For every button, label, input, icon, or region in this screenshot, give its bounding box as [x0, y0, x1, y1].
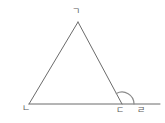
vertex-label-extension-end: ㄹ — [137, 106, 145, 115]
geometry-figure: ㄱ ㄴ ㄷ ㄹ — [0, 0, 165, 123]
triangle-side-right — [78, 22, 122, 104]
vertex-label-base-right: ㄷ — [116, 106, 124, 115]
vertex-label-base-left: ㄴ — [22, 104, 30, 113]
vertex-label-apex: ㄱ — [72, 7, 80, 16]
triangle-side-left — [29, 22, 78, 104]
